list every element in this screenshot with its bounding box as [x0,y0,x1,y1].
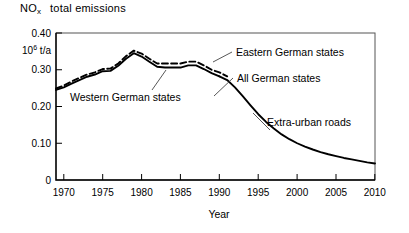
y-tick-label-1: 0.30 [32,64,52,75]
series-line-western-german-states [56,53,219,90]
x-tick-label-4: 1990 [208,187,231,198]
annotation-all-german-states: All German states [237,72,320,84]
x-tick-label-6: 2000 [286,187,309,198]
chart-figure: NOxtotal emissions 0.40 0.30 0. [0,0,409,233]
annotation-extra-urban-roads: Extra-urban roads [267,116,351,128]
y-unit-mantissa: 10 [22,45,34,56]
leader-line-western [152,70,166,90]
leader-line-eastern [213,52,232,62]
x-tick-label-7: 2005 [325,187,348,198]
x-axis-ticks [64,174,375,180]
y-tick-label-3: 0.10 [32,138,52,149]
x-tick-label-2: 1980 [130,187,153,198]
data-series-layer [56,51,375,164]
y-axis-unit-label: 106 t/a [22,44,51,56]
x-tick-label-3: 1985 [169,187,192,198]
x-tick-label-1: 1975 [92,187,115,198]
annotation-western-german-states: Western German states [70,91,181,103]
x-tick-label-8: 2010 [364,187,387,198]
y-unit-rest: t/a [37,45,51,56]
leader-line-all [214,78,233,96]
x-axis-title: Year [208,208,230,220]
x-tick-label-0: 1970 [53,187,76,198]
y-tick-label-0: 0.40 [32,28,52,39]
x-tick-label-5: 1995 [247,187,270,198]
y-tick-label-4: 0 [45,175,51,186]
y-tick-label-2: 0.20 [32,101,52,112]
annotation-eastern-german-states: Eastern German states [236,46,344,58]
chart-plot-area: 0.40 0.30 0.20 0.10 0 106 t/a 1970 1975 … [0,0,409,233]
